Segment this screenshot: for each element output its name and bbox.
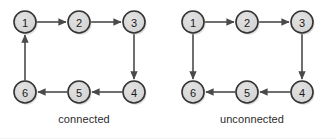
caption-connected: connected bbox=[0, 113, 168, 125]
graph-node-4[interactable]: 4 bbox=[123, 81, 147, 105]
graph-node-4[interactable]: 4 bbox=[291, 81, 315, 105]
graph-diagram-unconnected: 123456 bbox=[168, 0, 336, 116]
node-layer: 123456 bbox=[182, 11, 315, 105]
graph-node-5[interactable]: 5 bbox=[236, 81, 260, 105]
graph-node-6[interactable]: 6 bbox=[14, 81, 38, 105]
graph-node-2[interactable]: 2 bbox=[236, 11, 260, 35]
bottom-divider bbox=[0, 138, 336, 139]
node-layer: 123456 bbox=[14, 11, 147, 105]
node-label: 3 bbox=[131, 17, 137, 29]
caption-unconnected: unconnected bbox=[168, 113, 336, 125]
node-label: 2 bbox=[244, 17, 250, 29]
node-label: 1 bbox=[190, 17, 196, 29]
node-label: 4 bbox=[131, 87, 137, 99]
graph-node-3[interactable]: 3 bbox=[291, 11, 315, 35]
node-label: 3 bbox=[299, 17, 305, 29]
graph-node-5[interactable]: 5 bbox=[68, 81, 92, 105]
figure-root: 123456 connected 123456 unconnected bbox=[0, 0, 336, 139]
graph-node-6[interactable]: 6 bbox=[182, 81, 206, 105]
graph-panel-unconnected: 123456 unconnected bbox=[168, 0, 336, 139]
node-label: 1 bbox=[22, 17, 28, 29]
graph-node-1[interactable]: 1 bbox=[14, 11, 38, 35]
node-label: 2 bbox=[76, 17, 82, 29]
node-label: 5 bbox=[76, 87, 82, 99]
graph-node-1[interactable]: 1 bbox=[182, 11, 206, 35]
graph-panel-connected: 123456 connected bbox=[0, 0, 168, 139]
node-label: 6 bbox=[190, 87, 196, 99]
graph-node-3[interactable]: 3 bbox=[123, 11, 147, 35]
node-label: 4 bbox=[299, 87, 305, 99]
graph-diagram-connected: 123456 bbox=[0, 0, 168, 116]
node-label: 5 bbox=[244, 87, 250, 99]
node-label: 6 bbox=[22, 87, 28, 99]
graph-node-2[interactable]: 2 bbox=[68, 11, 92, 35]
